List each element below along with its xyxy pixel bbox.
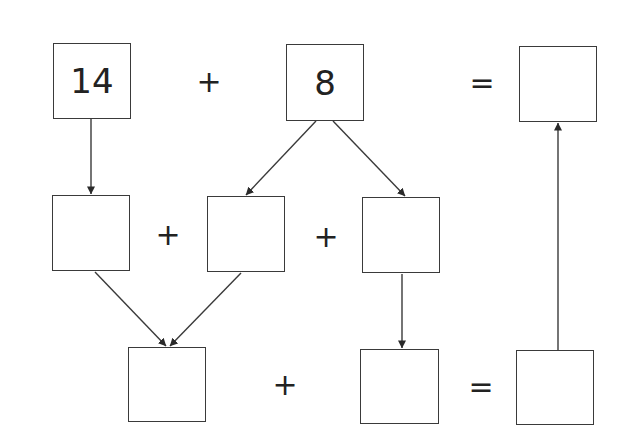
arrow-8-to-c [333, 121, 405, 196]
value-fourteen: 14 [70, 61, 113, 101]
answer-box-a[interactable] [52, 195, 130, 271]
plus-sign: + [313, 222, 338, 252]
arrow-b-to-d [170, 273, 241, 346]
box-fourteen: 14 [53, 43, 131, 119]
answer-box-result[interactable] [519, 46, 597, 122]
arrow-8-to-b [246, 121, 316, 195]
answer-box-f[interactable] [516, 350, 594, 425]
answer-box-c[interactable] [362, 197, 440, 273]
plus-sign: + [155, 220, 180, 250]
box-eight: 8 [286, 44, 364, 121]
equals-sign: = [469, 68, 494, 98]
answer-box-e[interactable] [360, 349, 439, 424]
arrow-a-to-d [95, 272, 166, 346]
plus-sign: + [272, 370, 297, 400]
plus-sign: + [196, 67, 221, 97]
answer-box-d[interactable] [128, 347, 206, 422]
value-eight: 8 [314, 63, 336, 103]
answer-box-b[interactable] [207, 196, 285, 272]
equals-sign: = [468, 372, 493, 402]
